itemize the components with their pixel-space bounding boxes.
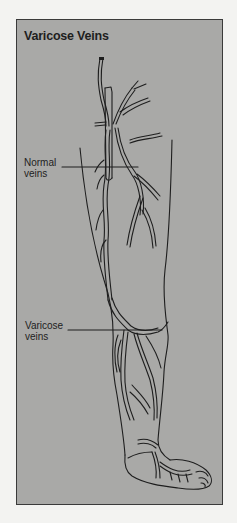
varicose-veins: [108, 298, 192, 482]
leg-illustration: [0, 0, 237, 523]
normal-veins: [95, 57, 162, 300]
leg-outline: [80, 140, 211, 489]
